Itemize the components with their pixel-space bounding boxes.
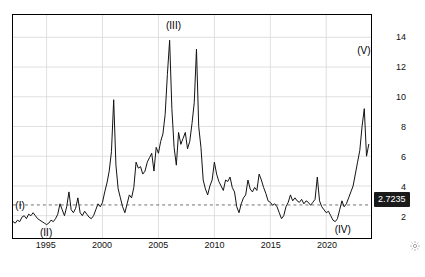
- wave-label: (II): [40, 227, 52, 238]
- y-tick-label: 6: [401, 152, 406, 162]
- wave-annotations: (I)(II)(III)(IV)(V)?: [13, 15, 371, 238]
- wave-label: (V)?: [357, 45, 372, 56]
- x-tick-label: 2010: [204, 240, 224, 250]
- x-tick-label: 1995: [36, 240, 56, 250]
- x-tick-label: 2005: [148, 240, 168, 250]
- y-tick-label: 14: [396, 32, 406, 42]
- wave-label: (III): [166, 20, 181, 31]
- plot-area[interactable]: (I)(II)(III)(IV)(V)?: [12, 14, 372, 239]
- y-tick-label: 4: [401, 182, 406, 192]
- y-tick-label: 2: [401, 212, 406, 222]
- chart-container: (I)(II)(III)(IV)(V)? 2468101214 19952000…: [0, 0, 425, 277]
- last-price-tag: 2.7235: [374, 192, 410, 207]
- x-tick-label: 2000: [92, 240, 112, 250]
- y-tick-label: 10: [396, 92, 406, 102]
- x-tick-label: 2015: [261, 240, 281, 250]
- settings-gear-icon[interactable]: [409, 240, 421, 252]
- x-axis: 199520002005201020152020: [12, 240, 372, 254]
- y-tick-label: 12: [396, 62, 406, 72]
- y-tick-label: 8: [401, 122, 406, 132]
- wave-label: (I): [15, 200, 24, 211]
- x-tick-label: 2020: [317, 240, 337, 250]
- wave-label: (IV): [335, 224, 351, 235]
